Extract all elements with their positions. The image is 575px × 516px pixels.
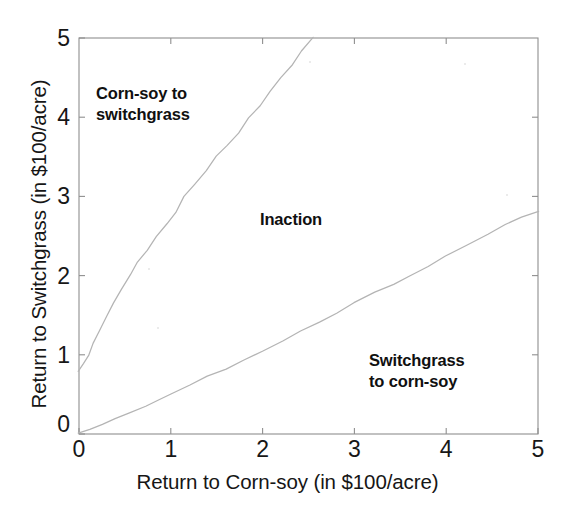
y-axis-title: Return to Switchgrass (in $100/acre) [27,29,51,459]
x-tick-label-4: 4 [431,438,461,461]
annotation-inaction: Inaction [229,209,353,230]
scan-speckle [309,61,311,63]
chart-figure: 0 1 2 3 4 5 0 1 2 3 4 5 Corn-soy to swit… [0,0,575,516]
scan-speckle [506,194,508,196]
annotation-corn-soy-to-switchgrass: Corn-soy to switchgrass [96,83,190,126]
x-axis-title: Return to Corn-soy (in $100/acre) [0,470,575,494]
scan-speckle [464,63,466,65]
x-tick-label-5: 5 [523,438,553,461]
x-tick-label-0: 0 [64,438,94,461]
x-tick-label-2: 2 [248,438,278,461]
scan-speckle [157,327,159,329]
scan-speckle [148,268,150,270]
annotation-switchgrass-to-corn-soy: Switchgrass to corn-soy [369,350,465,393]
x-tick-label-1: 1 [156,438,186,461]
x-tick-label-3: 3 [339,438,369,461]
